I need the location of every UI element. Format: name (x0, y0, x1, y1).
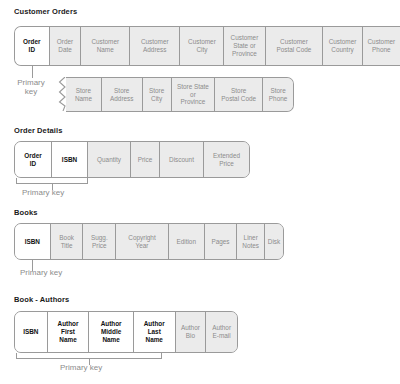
section-title-book-authors: Book - Authors (14, 295, 69, 304)
field-author-email[interactable]: Author E-mail (206, 312, 237, 352)
field-sugg-price[interactable]: Sugg. Price (83, 224, 116, 259)
field-quantity[interactable]: Quantity (88, 142, 131, 177)
primary-key-label-customer-orders: Primary key (8, 78, 54, 96)
table-customer-orders-row-2: Store Name Store Address Store City Stor… (66, 77, 294, 112)
field-author-bio[interactable]: Author Bio (176, 312, 207, 352)
section-title-customer-orders: Customer Orders (14, 7, 77, 16)
field-ba-isbn[interactable]: ISBN (15, 312, 48, 352)
field-customer-city[interactable]: Customer City (180, 27, 224, 65)
field-author-last-name[interactable]: Author Last Name (134, 312, 176, 352)
field-customer-phone[interactable]: Customer Phone (363, 27, 400, 65)
field-customer-postal-code[interactable]: Customer Postal Code (266, 27, 324, 65)
section-title-order-details: Order Details (14, 126, 62, 135)
field-liner-notes[interactable]: Liner Notes (237, 224, 265, 259)
field-extended-price[interactable]: Extended Price (204, 142, 249, 177)
table-book-authors-row-1: ISBN Author First Name Author Middle Nam… (14, 311, 238, 353)
primary-key-label-order-details: Primary key (22, 188, 84, 197)
field-od-order-id[interactable]: Order ID (15, 142, 52, 177)
field-order-date[interactable]: Order Date (50, 27, 82, 65)
primary-key-leader-line-customer-orders (32, 66, 33, 78)
section-title-books: Books (14, 208, 37, 217)
field-store-city[interactable]: Store City (143, 78, 172, 111)
field-customer-state-or-province[interactable]: Customer State or Province (224, 27, 265, 65)
field-customer-name[interactable]: Customer Name (81, 27, 130, 65)
field-author-middle-name[interactable]: Author Middle Name (89, 312, 134, 352)
table-customer-orders-row-1: Order ID Order Date Customer Name Custom… (14, 26, 400, 66)
field-book-title[interactable]: Book Title (51, 224, 84, 259)
field-od-isbn[interactable]: ISBN (52, 142, 88, 177)
field-disk[interactable]: Disk (265, 224, 283, 259)
field-customer-address[interactable]: Customer Address (130, 27, 180, 65)
field-store-phone[interactable]: Store Phone (263, 78, 293, 111)
field-store-name[interactable]: Store Name (66, 78, 102, 111)
primary-key-label-books: Primary key (20, 268, 82, 277)
field-store-postal-code[interactable]: Store Postal Code (215, 78, 263, 111)
field-pages[interactable]: Pages (205, 224, 238, 259)
primary-key-label-book-authors: Primary key (60, 363, 150, 372)
field-discount[interactable]: Discount (160, 142, 204, 177)
field-store-address[interactable]: Store Address (102, 78, 143, 111)
field-price[interactable]: Price (131, 142, 160, 177)
field-bk-isbn[interactable]: ISBN (15, 224, 51, 259)
field-order-id[interactable]: Order ID (15, 27, 50, 65)
field-customer-country[interactable]: Customer Country (323, 27, 362, 65)
field-copyright-year[interactable]: Copyright Year (116, 224, 169, 259)
table-order-details-row-1: Order ID ISBN Quantity Price Discount Ex… (14, 141, 250, 178)
table-books-row-1: ISBN Book Title Sugg. Price Copyright Ye… (14, 223, 284, 260)
field-author-first-name[interactable]: Author First Name (48, 312, 90, 352)
field-edition[interactable]: Edition (169, 224, 205, 259)
field-store-state-or-province[interactable]: Store State or Province (172, 78, 216, 111)
